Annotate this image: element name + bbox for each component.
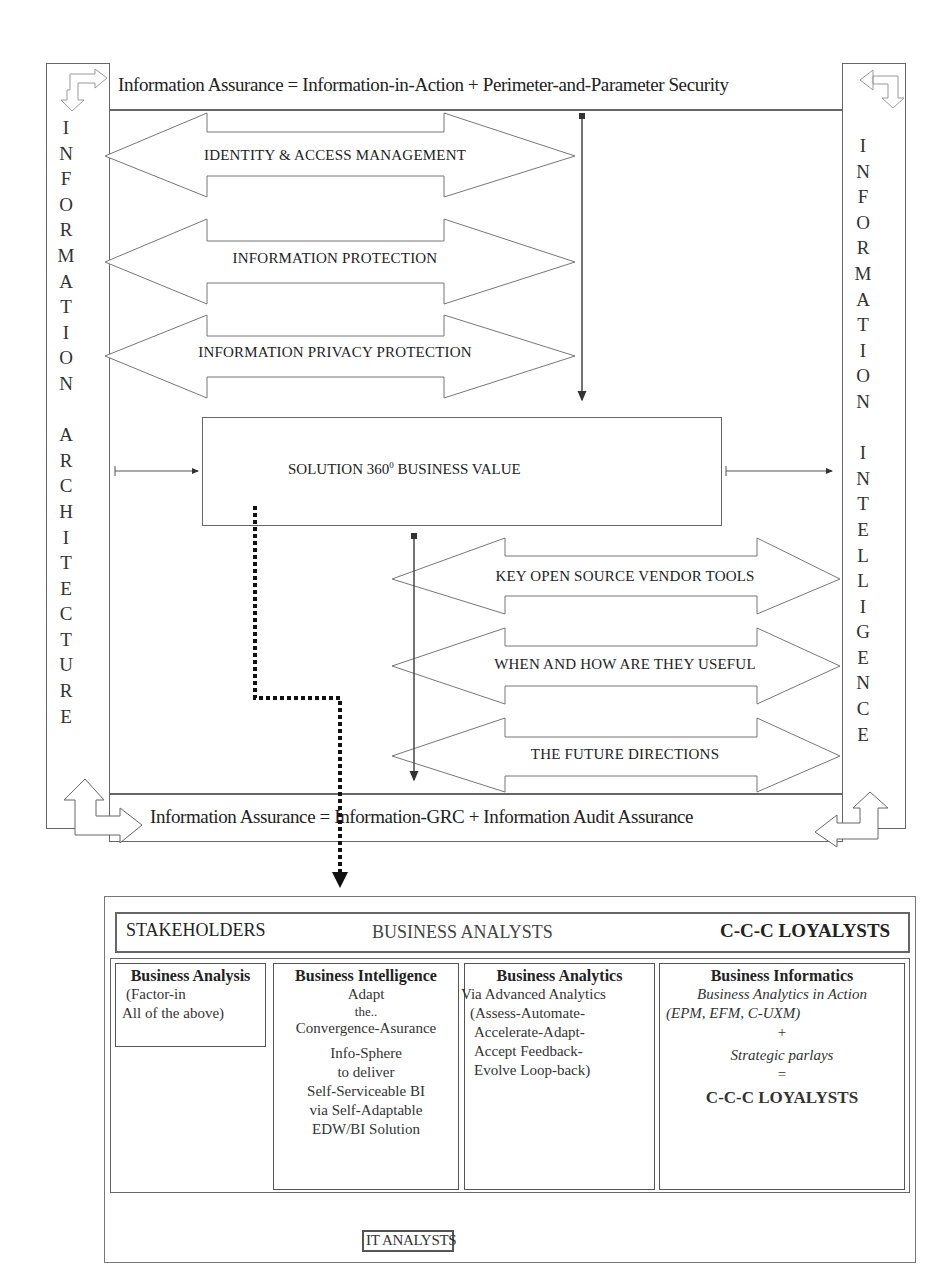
column-line: C-C-C LOYALYSTS — [660, 1088, 904, 1107]
column-line: Accept Feedback- — [465, 1042, 654, 1061]
column-line: Strategic parlays — [660, 1046, 904, 1065]
column-line: + — [660, 1023, 904, 1042]
column-line: to deliver — [274, 1063, 458, 1082]
column-business-informatics: Business Informatics Business Analytics … — [659, 963, 905, 1190]
column-business-analytics: Business Analytics Via Advanced Analytic… — [464, 963, 655, 1190]
column-line: Info-Sphere — [274, 1044, 458, 1063]
bent-arrow-icon — [815, 792, 888, 847]
column-line: EDW/BI Solution — [274, 1120, 458, 1139]
bent-arrow-icon — [64, 779, 142, 843]
column-line: Via Advanced Analytics — [461, 985, 654, 1004]
arrow-label-future: THE FUTURE DIRECTIONS — [470, 746, 780, 763]
arrow-label-when-how: WHEN AND HOW ARE THEY USEFUL — [470, 656, 780, 673]
column-title: Business Analytics — [465, 967, 654, 985]
header-loyalysts: C-C-C LOYALYSTS — [720, 920, 890, 942]
column-line: (EPM, EFM, C-UXM) — [660, 1004, 904, 1023]
arrow-label-privacy: INFORMATION PRIVACY PROTECTION — [160, 344, 510, 361]
column-business-analysis: Business Analysis (Factor-in All of the … — [115, 963, 266, 1047]
arrow-label-identity: IDENTITY & ACCESS MANAGEMENT — [185, 147, 485, 164]
it-analysts-label: IT ANALYSTS — [366, 1232, 456, 1249]
column-line: Adapt — [274, 985, 458, 1004]
header-stakeholders: STAKEHOLDERS — [126, 920, 266, 941]
column-line: Convergence-Asurance — [274, 1019, 458, 1038]
column-line: (Assess-Automate- — [465, 1004, 654, 1023]
column-line: Accelerate-Adapt- — [465, 1023, 654, 1042]
header-business-analysts: BUSINESS ANALYSTS — [372, 922, 553, 943]
column-line: Self-Serviceable BI — [274, 1082, 458, 1101]
arrow-label-vendor-tools: KEY OPEN SOURCE VENDOR TOOLS — [470, 568, 780, 585]
column-title: Business Intelligence — [274, 967, 458, 985]
column-line: (Factor-in — [116, 985, 265, 1004]
column-line: the.. — [274, 1004, 458, 1019]
column-line: = — [660, 1065, 904, 1084]
column-line: All of the above) — [116, 1004, 265, 1023]
column-line: Evolve Loop-back) — [465, 1061, 654, 1080]
column-title: Business Informatics — [660, 967, 904, 985]
bent-arrow-icon — [61, 69, 107, 111]
arrow-label-info-protection: INFORMATION PROTECTION — [185, 250, 485, 267]
column-line: via Self-Adaptable — [274, 1101, 458, 1120]
column-title: Business Analysis — [116, 967, 265, 985]
bent-arrow-icon — [860, 70, 904, 108]
column-business-intelligence: Business Intelligence Adapt the.. Conver… — [273, 963, 459, 1190]
column-line: Business Analytics in Action — [660, 985, 904, 1004]
